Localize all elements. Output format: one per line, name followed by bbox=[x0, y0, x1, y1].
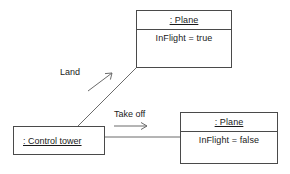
object-attribute-label: InFlight = false bbox=[181, 135, 277, 145]
object-node-plane-grounded[interactable]: : Plane InFlight = false bbox=[180, 112, 278, 164]
uml-object-diagram-canvas: : Plane InFlight = true : Plane InFlight… bbox=[0, 0, 290, 174]
link-label-land: Land bbox=[60, 67, 80, 77]
object-name-label: : Plane bbox=[170, 15, 199, 25]
land-arrow-shaft bbox=[88, 73, 112, 91]
object-name-compartment: : Plane bbox=[181, 113, 277, 132]
object-name-label: : Plane bbox=[215, 117, 244, 127]
object-name-compartment: : Plane bbox=[137, 11, 231, 30]
object-node-plane-in-flight[interactable]: : Plane InFlight = true bbox=[136, 10, 232, 68]
object-attribute-label: InFlight = true bbox=[137, 33, 231, 43]
object-attribute-compartment: InFlight = false bbox=[181, 132, 277, 164]
link-label-takeoff: Take off bbox=[114, 109, 145, 119]
object-name-label: : Control tower bbox=[23, 136, 82, 146]
object-attribute-compartment: InFlight = true bbox=[137, 30, 231, 68]
object-node-control-tower[interactable]: : Control tower bbox=[13, 126, 105, 155]
